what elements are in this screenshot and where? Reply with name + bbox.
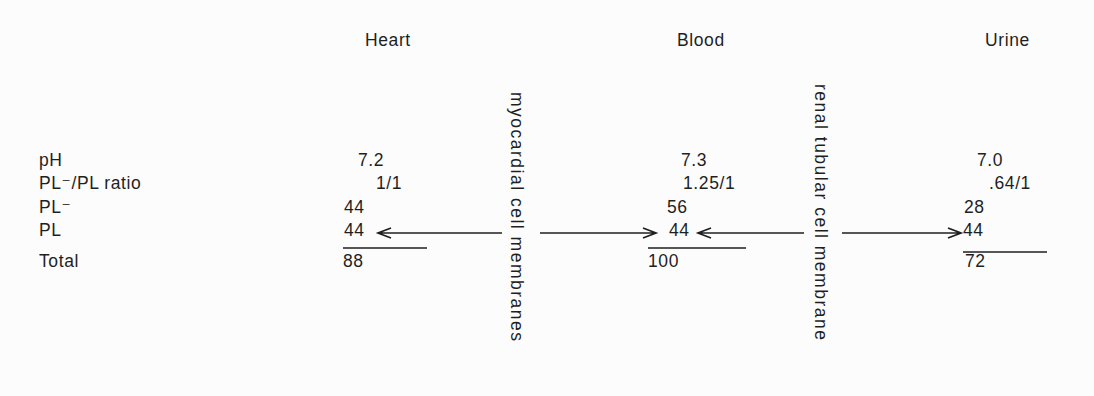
blood-pl-value: 44 (669, 221, 690, 239)
arrow-myocardial-to-heart-pl (378, 228, 502, 238)
row-label-pl-ionized: PL⁻ (39, 198, 71, 216)
blood-ph-value: 7.3 (681, 151, 707, 169)
heart-pl-value: 44 (344, 221, 365, 239)
urine-pl-ionized-value: 28 (964, 198, 985, 216)
heart-ph-value: 7.2 (358, 151, 384, 169)
column-header-urine: Urine (985, 31, 1030, 49)
row-label-total: Total (39, 252, 79, 270)
renal-membrane-label: renal tubular cell membrane (810, 84, 831, 341)
row-label-ph: pH (39, 151, 63, 169)
arrow-renal-to-urine-pl (842, 228, 961, 238)
row-label-ratio: PL⁻/PL ratio (39, 174, 141, 192)
urine-pl-value: 44 (963, 221, 984, 239)
blood-pl-ionized-value: 56 (667, 198, 688, 216)
urine-ph-value: 7.0 (977, 151, 1003, 169)
arrows-and-rules-layer (0, 0, 1094, 396)
arrow-renal-to-blood-pl (698, 228, 804, 238)
arrow-myocardial-to-blood-pl (540, 228, 656, 238)
ph-partition-diagram: Heart Blood Urine pH PL⁻/PL ratio PL⁻ PL… (0, 0, 1094, 396)
blood-total-value: 100 (648, 252, 679, 270)
heart-ratio-value: 1/1 (376, 174, 402, 192)
heart-total-value: 88 (343, 252, 364, 270)
row-label-pl: PL (39, 221, 62, 239)
heart-pl-ionized-value: 44 (344, 198, 365, 216)
myocardial-membrane-label: myocardial cell membranes (506, 92, 527, 343)
urine-ratio-value: .64/1 (989, 174, 1031, 192)
blood-ratio-value: 1.25/1 (683, 174, 735, 192)
column-header-blood: Blood (677, 31, 725, 49)
column-header-heart: Heart (365, 31, 411, 49)
urine-total-value: 72 (965, 252, 986, 270)
